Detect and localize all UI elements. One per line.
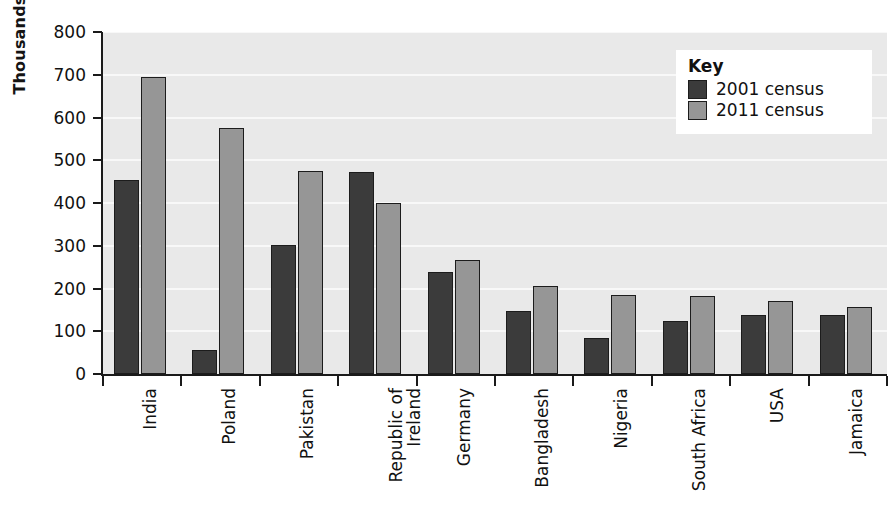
x-axis-category-label: USA bbox=[769, 388, 787, 423]
legend-title: Key bbox=[688, 56, 864, 76]
y-axis-tick-mark bbox=[93, 117, 102, 119]
legend-item: 2011 census bbox=[688, 100, 864, 120]
legend: Key 2001 census2011 census bbox=[676, 50, 872, 134]
x-axis-category-label: Germany bbox=[456, 388, 474, 466]
x-axis-tick-mark bbox=[180, 376, 182, 386]
x-axis-category-label: Pakistan bbox=[299, 388, 317, 459]
x-axis-tick-mark bbox=[651, 376, 653, 386]
y-axis-tick-mark bbox=[93, 159, 102, 161]
y-axis-tick-mark bbox=[93, 288, 102, 290]
x-axis-tick-mark bbox=[337, 376, 339, 386]
legend-item-label: 2001 census bbox=[716, 79, 824, 99]
x-axis-category-label: Jamaica bbox=[848, 388, 866, 455]
legend-color-swatch bbox=[688, 101, 707, 120]
legend-color-swatch bbox=[688, 80, 707, 99]
y-axis-tick-mark bbox=[93, 245, 102, 247]
x-axis-category-label-line: Bangladesh bbox=[534, 388, 552, 488]
x-axis-tick-mark bbox=[102, 376, 104, 386]
x-axis-category-label: Bangladesh bbox=[534, 388, 552, 488]
x-axis-category-label: South Africa bbox=[691, 388, 709, 491]
x-axis-tick-mark bbox=[259, 376, 261, 386]
x-axis-category-label-line: Poland bbox=[221, 388, 239, 445]
x-axis-category-label-line: Ireland bbox=[406, 388, 424, 482]
y-axis-tick-mark bbox=[93, 330, 102, 332]
x-axis-tick-mark bbox=[572, 376, 574, 386]
x-axis-category-label-line: Nigeria bbox=[613, 388, 631, 449]
legend-item: 2001 census bbox=[688, 79, 864, 99]
y-axis-tick-mark bbox=[93, 373, 102, 375]
x-axis-tick-mark bbox=[494, 376, 496, 386]
x-axis-category-label-line: Germany bbox=[456, 388, 474, 466]
y-axis-tick-mark bbox=[93, 202, 102, 204]
x-axis-category-label: Nigeria bbox=[613, 388, 631, 449]
x-axis-category-label: India bbox=[142, 388, 160, 430]
y-axis-tick-mark bbox=[93, 31, 102, 33]
x-axis-category-label-line: South Africa bbox=[691, 388, 709, 491]
x-axis-category-label-line: Jamaica bbox=[848, 388, 866, 455]
x-axis-tick-mark bbox=[808, 376, 810, 386]
legend-item-label: 2011 census bbox=[716, 100, 824, 120]
legend-items: 2001 census2011 census bbox=[686, 79, 864, 120]
x-axis-tick-mark bbox=[886, 376, 888, 386]
x-axis-category-label: Republic ofIreland bbox=[388, 388, 424, 482]
x-axis-category-label-line: USA bbox=[769, 388, 787, 423]
y-axis-tick-mark bbox=[93, 74, 102, 76]
x-axis-category-label: Poland bbox=[221, 388, 239, 445]
bar-chart: Thousands 8007006005004003002001000 Indi… bbox=[0, 0, 891, 531]
x-axis-tick-mark bbox=[416, 376, 418, 386]
x-axis-category-label-line: Pakistan bbox=[299, 388, 317, 459]
x-axis-tick-mark bbox=[729, 376, 731, 386]
x-axis-category-label-line: India bbox=[142, 388, 160, 430]
